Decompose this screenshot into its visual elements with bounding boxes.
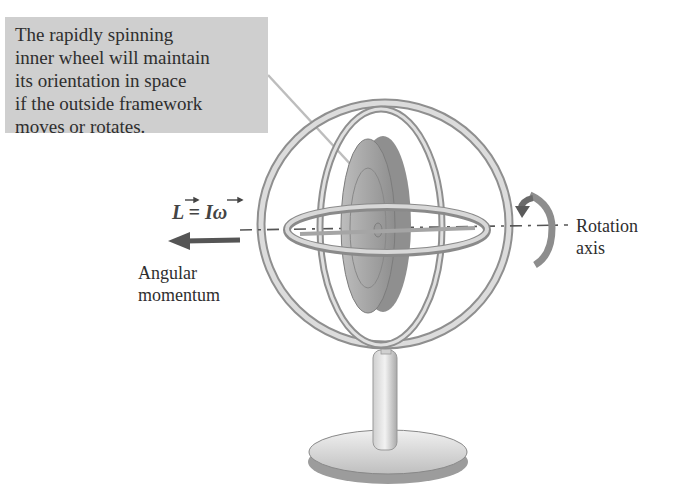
equation-equals-I: = I	[183, 201, 212, 223]
callout-line: its orientation in space	[15, 69, 258, 92]
callout-line: if the outside framework	[15, 92, 258, 115]
callout-line: The rapidly spinning	[15, 23, 258, 46]
angular-momentum-arrow	[168, 232, 240, 250]
rotation-label-line2: axis	[576, 237, 638, 259]
spinning-wheel	[341, 136, 411, 313]
equation-omega: ω	[213, 201, 227, 223]
rotation-axis-label: Rotation axis	[576, 215, 638, 259]
callout-line: inner wheel will maintain	[15, 46, 258, 69]
explanation-callout: The rapidly spinning inner wheel will ma…	[5, 17, 268, 133]
angular-label-line1: Angular	[138, 262, 220, 284]
rotation-arrow-icon	[515, 195, 552, 265]
angular-momentum-label: Angular momentum	[138, 262, 220, 306]
angular-momentum-equation: L = Iω	[172, 201, 227, 224]
angular-label-line2: momentum	[138, 284, 220, 306]
equation-L: L	[172, 201, 183, 223]
callout-line: moves or rotates.	[15, 115, 258, 138]
stand-post	[373, 350, 397, 450]
rotation-label-line1: Rotation	[576, 215, 638, 237]
